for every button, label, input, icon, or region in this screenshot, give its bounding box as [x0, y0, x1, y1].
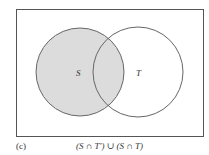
formula-caption: (S ∩ T′) ∪ (S ∩ T): [76, 141, 143, 151]
venn-diagram: [0, 0, 209, 155]
panel-label: (c): [16, 141, 26, 151]
set-t-label: T: [136, 68, 141, 78]
set-s-label: S: [76, 68, 81, 78]
